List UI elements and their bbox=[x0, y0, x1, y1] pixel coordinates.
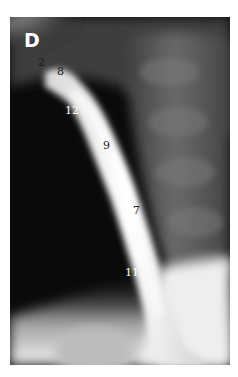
label-2: 2 bbox=[38, 57, 45, 68]
panel-letter: D bbox=[24, 29, 40, 51]
label-12: 12 bbox=[65, 105, 79, 116]
label-8: 8 bbox=[57, 66, 64, 77]
label-11: 11 bbox=[125, 267, 139, 278]
label-7: 7 bbox=[133, 205, 140, 216]
xray-image: D 2 8 12 9 7 11 bbox=[10, 17, 230, 365]
label-9: 9 bbox=[103, 140, 110, 151]
radiograph-svg bbox=[10, 17, 230, 365]
